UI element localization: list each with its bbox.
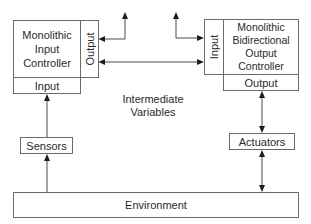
environment-to-sensors-connector (44, 154, 50, 193)
arrowhead-up-icon (259, 150, 265, 157)
arrowhead-right-icon (197, 35, 204, 41)
right-controller-output-label: Output (244, 77, 277, 89)
sensors-block: Sensors (21, 138, 73, 154)
intermediate-variables-connector (99, 59, 205, 65)
right-upper-connector (173, 12, 204, 41)
arrowhead-down-icon (259, 185, 265, 192)
arrowhead-up-icon (173, 12, 179, 19)
left-controller-input-label: Input (35, 80, 59, 92)
output-to-actuators-connector (259, 91, 265, 133)
environment-label: Environment (125, 199, 187, 211)
left-controller-title-line1: Monolithic (22, 29, 72, 41)
left-controller-title-line2: Input (35, 43, 59, 55)
sensors-label: Sensors (26, 140, 67, 152)
right-controller-title-line3: Output (245, 47, 277, 59)
monolithic-input-controller: Monolithic Input Controller Output Input (14, 21, 99, 94)
actuators-block: Actuators (230, 134, 295, 150)
environment-block: Environment (14, 193, 299, 218)
left-upper-connector (99, 12, 129, 42)
intermediate-variables-label-line2: Variables (130, 106, 176, 118)
arrowhead-up-icon (259, 91, 265, 98)
monolithic-bidirectional-output-controller: Monolithic Bidirectional Output Controll… (205, 20, 299, 91)
right-controller-title-line1: Monolithic (237, 21, 284, 33)
arrowhead-left-icon (99, 59, 106, 65)
actuators-label: Actuators (239, 136, 286, 148)
control-architecture-diagram: Monolithic Input Controller Output Input… (0, 0, 311, 224)
sensors-to-input-connector (44, 94, 50, 137)
arrowhead-up-icon (44, 94, 50, 101)
right-controller-title-line4: Controller (238, 60, 284, 72)
left-controller-title-line3: Controller (23, 57, 71, 69)
arrowhead-down-icon (259, 126, 265, 133)
right-controller-input-label: Input (208, 35, 220, 59)
actuators-to-environment-connector (259, 150, 265, 192)
intermediate-variables-label-line1: Intermediate (122, 93, 183, 105)
right-controller-title-line2: Bidirectional (232, 34, 289, 46)
arrowhead-right-icon (197, 59, 204, 65)
arrowhead-up-icon (122, 12, 128, 19)
arrowhead-left-icon (99, 36, 106, 42)
left-controller-output-label: Output (84, 32, 96, 65)
arrowhead-up-icon (44, 154, 50, 161)
